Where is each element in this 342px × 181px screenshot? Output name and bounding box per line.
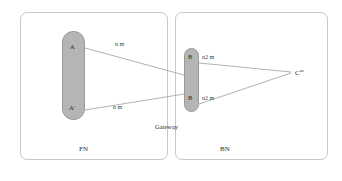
node-label-c-superscript: m [300,68,304,73]
panel-label-bn: BN [220,146,230,153]
node-label-b: B [188,54,192,61]
edge-a-to-b [85,48,184,75]
node-label-a: A [70,44,75,51]
diagram-canvas: A A' B B n m n m n2 m n2 m Cm Gateway FN… [0,0,342,181]
edge-label-bprime-to-c: n2 m [202,95,214,101]
edge-label-b-to-c: n2 m [202,54,214,60]
gateway-label: Gateway [155,124,178,131]
edge-label-a-to-b: n m [115,41,124,47]
node-label-c: Cm [295,68,304,77]
node-label-b-prime: B [188,95,192,102]
panel-label-fn: FN [79,146,88,153]
edge-aprime-to-bprime [85,94,184,110]
edge-b-to-c [199,63,291,72]
node-label-a-prime: A' [69,105,75,112]
edge-lines-layer [0,0,342,181]
edge-label-aprime-to-bprime: n m [113,104,122,110]
